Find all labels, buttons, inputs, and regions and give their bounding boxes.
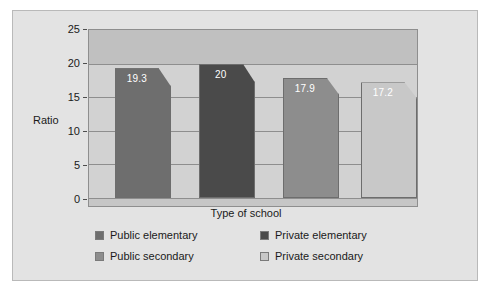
bar-value-label: 19.3 — [115, 73, 159, 84]
legend-swatch-icon — [260, 252, 269, 261]
bar-value-label: 17.9 — [283, 83, 327, 94]
y-tick-mark — [83, 29, 87, 30]
legend-item-label: Private secondary — [275, 250, 363, 262]
y-tick-label: 20 — [54, 58, 80, 69]
plot-region: 19.3 20 17.9 17.2 — [88, 29, 418, 199]
legend-swatch-icon — [95, 231, 104, 240]
legend-item-private-secondary[interactable]: Private secondary — [260, 250, 425, 262]
legend-item-public-elementary[interactable]: Public elementary — [95, 229, 260, 241]
y-tick-mark — [83, 131, 87, 132]
y-tick-mark — [83, 97, 87, 98]
plot-floor — [88, 199, 418, 207]
chart-panel: 25 20 15 10 5 0 Ratio 19.3 20 — [12, 10, 478, 281]
bar-face — [361, 82, 417, 198]
bar-public-elementary[interactable]: 19.3 — [115, 68, 171, 198]
legend-swatch-icon — [95, 252, 104, 261]
legend-item-label: Public secondary — [110, 250, 194, 262]
plot-area: 19.3 20 17.9 17.2 — [88, 29, 418, 199]
legend-item-label: Private elementary — [275, 229, 367, 241]
bar-face — [199, 64, 255, 198]
y-axis-title: Ratio — [33, 114, 59, 126]
x-axis-title: Type of school — [13, 207, 479, 219]
bar-public-secondary[interactable]: 17.9 — [283, 78, 339, 198]
y-tick-label: 25 — [54, 24, 80, 35]
legend-swatch-icon — [260, 231, 269, 240]
bar-value-label: 17.2 — [361, 87, 405, 98]
y-tick-mark — [83, 63, 87, 64]
bar-private-elementary[interactable]: 20 — [199, 64, 255, 198]
bar-face — [283, 78, 339, 198]
legend-item-private-elementary[interactable]: Private elementary — [260, 229, 425, 241]
bar-private-secondary[interactable]: 17.2 — [361, 82, 417, 198]
y-tick-label: 10 — [54, 126, 80, 137]
chart-legend: Public elementary Private elementary Pub… — [95, 229, 425, 262]
bar-face — [115, 68, 171, 198]
bar-value-label: 20 — [199, 69, 243, 80]
legend-item-public-secondary[interactable]: Public secondary — [95, 250, 260, 262]
y-tick-mark — [83, 165, 87, 166]
plot-upper-band — [89, 30, 417, 64]
legend-item-label: Public elementary — [110, 229, 197, 241]
y-tick-label: 5 — [54, 160, 80, 171]
y-tick-mark — [83, 199, 87, 200]
y-tick-label: 15 — [54, 92, 80, 103]
y-tick-label: 0 — [54, 194, 80, 205]
